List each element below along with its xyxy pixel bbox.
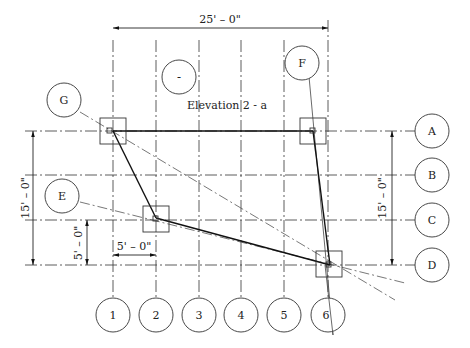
reference-lines [80,55,405,335]
svg-text:G: G [60,94,69,107]
column-bubbles: 1 2 3 4 5 6 [96,298,345,332]
column-label-4: 4 [238,309,245,322]
tag-bubble-f: F [285,46,319,80]
column-label-3: 3 [196,309,203,322]
tag-bubble-e: E [45,179,79,213]
right-height-label: 15' – 0" [376,177,389,219]
left-height-dimension: 15' – 0" [19,131,33,265]
tag-bubble-g: G [47,83,81,117]
column-label-2: 2 [153,309,160,322]
right-height-dimension: 15' – 0" [376,131,392,265]
row-label-d: D [428,259,437,272]
row-label-b: B [428,169,436,182]
small-horizontal-label: 5' – 0" [117,240,152,253]
row-bubbles: A B C D [415,114,449,282]
title-bubble: - [162,60,196,94]
node-boxes [100,118,342,277]
elevation-title: Elevation 2 - a [187,99,268,112]
overall-width-dimension: 25' – 0" [113,13,328,28]
small-vertical-dimension: 5' – 0" [72,220,87,265]
elevation-diagram: 25' – 0" 15' – 0" 15' – 0" 5' – 0" 5' – … [0,0,470,348]
svg-text:E: E [58,190,66,203]
small-horizontal-dimension: 5' – 0" [113,240,156,255]
small-vertical-label: 5' – 0" [72,226,85,261]
svg-text:-: - [177,70,181,84]
column-label-5: 5 [281,309,288,322]
row-label-a: A [427,125,437,138]
column-label-1: 1 [110,309,117,322]
svg-text:F: F [298,57,306,70]
column-label-6: 6 [323,309,330,322]
left-height-label: 15' – 0" [19,177,32,219]
row-label-c: C [428,214,436,227]
overall-width-label: 25' – 0" [199,13,241,26]
